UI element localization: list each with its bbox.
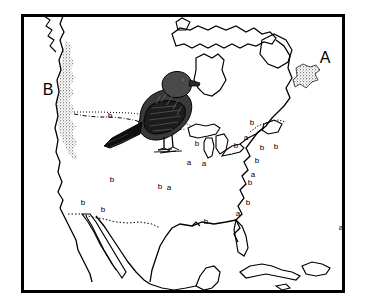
subspecies-marker: b (195, 140, 199, 148)
subspecies-marker: b (158, 183, 162, 191)
north-america-map (0, 0, 365, 308)
subspecies-marker: b (246, 199, 250, 207)
subspecies-marker: a (187, 159, 191, 167)
subspecies-marker: b (110, 176, 114, 184)
subspecies-marker: b (274, 143, 278, 151)
subspecies-marker: b (260, 144, 264, 152)
region-label-a: A (320, 50, 331, 66)
subspecies-marker: a (167, 184, 171, 192)
subspecies-marker: b (81, 199, 85, 207)
subspecies-marker: a (202, 160, 206, 168)
region-label-b: B (43, 82, 54, 98)
subspecies-marker: a (244, 134, 248, 142)
subspecies-marker: b (250, 119, 254, 127)
subspecies-marker: a (236, 210, 240, 218)
subspecies-marker: b (248, 179, 252, 187)
subspecies-marker: b (234, 142, 238, 150)
subspecies-marker: b (204, 218, 208, 226)
subspecies-marker: b (108, 112, 112, 120)
subspecies-marker-outside-frame: a (339, 224, 343, 232)
distribution-map-figure: A B b b b a b b b b a a b a b b a b b b … (0, 0, 365, 308)
subspecies-marker: b (255, 157, 259, 165)
subspecies-marker: b (101, 206, 105, 214)
